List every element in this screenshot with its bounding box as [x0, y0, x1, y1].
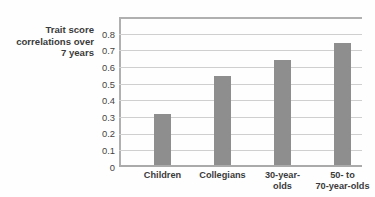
bars-group — [119, 17, 362, 167]
y-tick-label: 0.2 — [91, 129, 115, 139]
x-label-50-to-70-year-olds: 50- to 70-year-olds — [308, 170, 375, 192]
bar-50-to-70-year-olds — [334, 43, 351, 165]
y-tick-label: 0.4 — [91, 96, 115, 106]
y-axis-tick-labels: 0.8 0.7 0.6 0.5 0.4 0.3 0.2 0.1 0 — [88, 17, 115, 167]
y-tick-label: 0.8 — [91, 30, 115, 40]
y-tick-label: 0.6 — [91, 63, 115, 73]
y-tick-label: 0.5 — [91, 80, 115, 90]
y-tick-label: 0.3 — [91, 113, 115, 123]
y-tick-label: 0.7 — [91, 46, 115, 56]
y-axis-label: Trait score correlations over 7 years — [8, 24, 94, 59]
y-tick-label: 0.1 — [91, 146, 115, 156]
bar-chart-figure: Trait score correlations over 7 years 0.… — [0, 0, 375, 197]
bar-collegians — [214, 76, 231, 165]
bar-30-year-olds — [274, 60, 291, 165]
x-axis-category-labels: Children Collegians 30-year- olds 50- to… — [119, 170, 362, 197]
y-tick-label: 0 — [91, 163, 115, 173]
bar-children — [154, 114, 171, 165]
